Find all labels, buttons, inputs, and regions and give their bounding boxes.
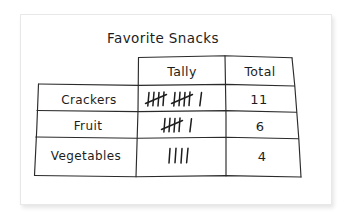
- screenshot-root: Favorite Snacks Tally Total Crackers Fru…: [0, 0, 352, 218]
- tally-chart-drawing: Favorite Snacks Tally Total Crackers Fru…: [0, 0, 352, 218]
- table-col-divider-1: [136, 58, 139, 177]
- tally-marks-fruit: [162, 118, 192, 132]
- table-right-edge: [292, 58, 301, 177]
- table-left-edge: [35, 84, 39, 176]
- total-value-crackers: 11: [250, 92, 267, 107]
- table-top-edge: [139, 56, 293, 58]
- table-header-divider: [39, 84, 295, 86]
- table-bottom-edge: [35, 176, 302, 178]
- total-value-fruit: 6: [256, 119, 265, 134]
- table-row-divider-2: [36, 137, 299, 139]
- tally-marks-vegetables: [169, 148, 188, 163]
- table-row-divider-1: [37, 111, 297, 113]
- column-header-total: Total: [243, 64, 275, 79]
- total-value-vegetables: 4: [258, 149, 267, 164]
- chart-title: Favorite Snacks: [107, 30, 219, 46]
- row-label-crackers: Crackers: [61, 93, 117, 107]
- row-label-vegetables: Vegetables: [51, 149, 121, 163]
- tally-marks-crackers: [146, 92, 202, 106]
- table-col-divider-2: [225, 56, 226, 176]
- column-header-tally: Tally: [166, 64, 197, 79]
- row-label-fruit: Fruit: [74, 119, 103, 133]
